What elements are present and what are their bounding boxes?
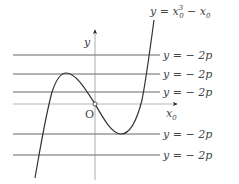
origin-label: O xyxy=(85,108,94,121)
x-axis-label: x0 xyxy=(166,107,177,122)
line-label-4: y = − 2p xyxy=(162,128,212,141)
y-axis-label: y xyxy=(83,36,91,49)
curve-equation-label: y = x30 − x0 xyxy=(149,4,211,20)
line-label-3: y = − 2p xyxy=(162,86,212,99)
diagram-canvas: y = x30 − x0 y x0 O y = − 2p y = − 2p y … xyxy=(0,0,239,184)
line-label-1: y = − 2p xyxy=(162,49,212,62)
line-label-2: y = − 2p xyxy=(162,68,212,81)
origin-point xyxy=(93,102,97,106)
line-label-5: y = − 2p xyxy=(162,149,212,162)
cubic-curve xyxy=(35,20,154,178)
